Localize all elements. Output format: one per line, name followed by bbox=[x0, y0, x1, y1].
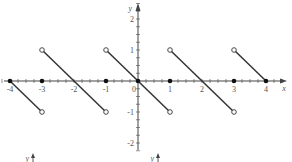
closed-point bbox=[8, 79, 13, 84]
x-tick-label: 0 bbox=[132, 85, 136, 94]
x-tick-label: -2 bbox=[71, 85, 78, 94]
x-tick-label: 3 bbox=[232, 85, 236, 94]
graph-segment bbox=[10, 81, 42, 112]
x-tick-label: -1 bbox=[103, 85, 110, 94]
x-axis-arrow-icon bbox=[280, 79, 287, 84]
closed-point bbox=[168, 79, 173, 84]
x-tick-label: 2 bbox=[200, 85, 204, 94]
partial-y-axis-label: y bbox=[24, 154, 29, 162]
closed-point bbox=[40, 79, 45, 84]
open-point bbox=[104, 48, 109, 53]
partial-y-axis-arrow-icon bbox=[31, 153, 35, 158]
graph-segment bbox=[234, 50, 266, 81]
y-tick-label: -1 bbox=[127, 108, 134, 117]
open-point bbox=[40, 110, 45, 115]
x-tick-label: -4 bbox=[7, 85, 14, 94]
closed-point bbox=[264, 79, 269, 84]
closed-point bbox=[136, 79, 141, 84]
open-point bbox=[40, 48, 45, 53]
sawtooth-function-graph: -4-3-2-101234x-2-1123yyy bbox=[0, 0, 292, 162]
closed-point bbox=[232, 79, 237, 84]
open-point bbox=[232, 110, 237, 115]
y-tick-label: 2 bbox=[130, 15, 134, 24]
open-point bbox=[232, 48, 237, 53]
x-tick-label: 4 bbox=[264, 85, 268, 94]
y-axis-arrow-icon bbox=[136, 3, 141, 11]
partial-y-axis-label: y bbox=[149, 154, 154, 162]
x-axis-label: x bbox=[281, 84, 286, 93]
partial-y-axis-arrow-icon bbox=[156, 153, 160, 158]
x-tick-label: -3 bbox=[39, 85, 46, 94]
open-point bbox=[168, 110, 173, 115]
y-tick-label: 1 bbox=[130, 46, 134, 55]
closed-point bbox=[104, 79, 109, 84]
x-tick-label: 1 bbox=[168, 85, 172, 94]
open-point bbox=[168, 48, 173, 53]
open-point bbox=[104, 110, 109, 115]
y-axis-label: y bbox=[127, 4, 132, 13]
y-tick-label: -2 bbox=[127, 139, 134, 148]
